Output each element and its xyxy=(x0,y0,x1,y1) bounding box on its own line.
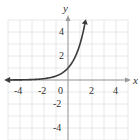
axes xyxy=(8,15,131,140)
x-tick-label: -2 xyxy=(38,85,46,96)
exponential-graph: x y -4 -2 0 2 4 4 2 -2 -4 xyxy=(0,0,139,140)
x-tick-label: 0 xyxy=(58,85,63,96)
y-axis-arrow-icon xyxy=(66,15,71,21)
y-tick-label: -4 xyxy=(53,122,61,133)
y-axis-label: y xyxy=(62,2,68,14)
exponential-curve xyxy=(9,24,85,80)
x-axis-label: x xyxy=(132,74,138,86)
x-tick-label: 2 xyxy=(89,85,94,96)
y-tick-label: -2 xyxy=(53,98,61,109)
y-tick-label: 2 xyxy=(59,50,64,61)
x-tick-label: 4 xyxy=(113,85,118,96)
curve-left-arrow-icon xyxy=(4,77,10,83)
y-tick-label: 4 xyxy=(59,26,64,37)
x-tick-label: -4 xyxy=(14,85,22,96)
